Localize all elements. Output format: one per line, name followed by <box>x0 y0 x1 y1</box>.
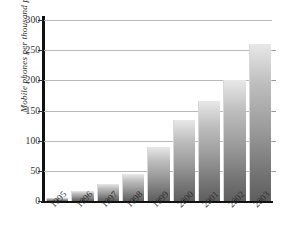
y-tick-mark <box>38 171 43 172</box>
plot-area <box>44 20 272 201</box>
y-tick-label: 100 <box>14 136 40 146</box>
y-tick-label: 200 <box>14 75 40 85</box>
y-tick-mark-right <box>272 80 276 81</box>
y-axis-tick-labels: 300 250 200 150 100 50 0 <box>10 0 40 241</box>
y-tick-mark <box>38 201 43 202</box>
bar-2001 <box>198 101 220 201</box>
y-tick-mark <box>38 80 43 81</box>
y-tick-mark-right <box>272 50 276 51</box>
bar-2000 <box>173 120 195 201</box>
y-tick-mark <box>38 20 43 21</box>
y-tick-mark-right <box>272 141 276 142</box>
x-axis-tick-labels: 199519961997199819992000200120022003 <box>44 203 280 241</box>
y-tick-mark-right <box>272 171 276 172</box>
y-tick-mark-right <box>272 111 276 112</box>
bars-group <box>44 20 272 201</box>
bar-2003 <box>249 44 271 201</box>
y-tick-label: 50 <box>14 166 40 176</box>
y-tick-label: 250 <box>14 45 40 55</box>
y-tick-mark <box>38 50 43 51</box>
y-tick-mark <box>38 141 43 142</box>
y-tick-mark <box>38 111 43 112</box>
bar-chart-figure: Mobile phones per thousand people 300 25… <box>0 0 284 241</box>
y-tick-label: 150 <box>14 106 40 116</box>
bar-2002 <box>223 80 245 201</box>
y-tick-label: 0 <box>14 196 40 206</box>
y-tick-label: 300 <box>14 15 40 25</box>
